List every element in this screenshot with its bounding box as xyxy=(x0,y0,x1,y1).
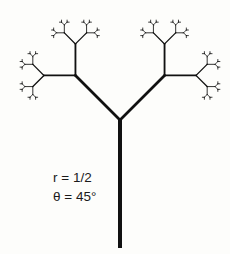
tree-branch xyxy=(33,54,36,57)
tree-branch xyxy=(22,84,25,87)
tree-branch xyxy=(75,33,86,44)
tree-branch xyxy=(33,94,36,97)
tree-branch xyxy=(215,64,218,67)
tree-branch xyxy=(196,75,207,86)
tree-branch xyxy=(22,64,25,67)
tree-branch xyxy=(30,54,33,57)
fractal-tree xyxy=(0,0,230,254)
tree-branch xyxy=(64,22,67,25)
tree-branch xyxy=(94,30,97,33)
tree-branch xyxy=(22,87,25,90)
tree-branch xyxy=(153,22,156,25)
tree-branch xyxy=(207,54,210,57)
ratio-label: r = 1/2 xyxy=(53,170,92,185)
tree-branch xyxy=(204,94,207,97)
tree-branch xyxy=(75,75,120,120)
tree-branch xyxy=(143,33,146,36)
tree-branch xyxy=(184,30,187,33)
tree-branch xyxy=(173,22,176,25)
tree-branch xyxy=(143,30,146,33)
tree-branch xyxy=(54,33,57,36)
tree-branch xyxy=(33,75,44,86)
tree-branch xyxy=(215,84,218,87)
tree-branch xyxy=(165,33,176,44)
tree-branch xyxy=(176,22,179,25)
tree-branch xyxy=(184,33,187,36)
tree-branch xyxy=(207,94,210,97)
tree-branch xyxy=(22,62,25,65)
tree-branch xyxy=(215,62,218,65)
tree-branch xyxy=(30,94,33,97)
tree-branch xyxy=(204,54,207,57)
tree-branch xyxy=(33,64,44,75)
tree-branches xyxy=(20,20,220,246)
angle-label: θ = 45° xyxy=(53,189,96,204)
tree-branch xyxy=(87,22,90,25)
tree-branch xyxy=(215,87,218,90)
tree-branch xyxy=(62,22,65,25)
tree-branch xyxy=(84,22,87,25)
tree-branch xyxy=(153,33,164,44)
tree-branch xyxy=(151,22,154,25)
tree-branch xyxy=(196,64,207,75)
tree-branch xyxy=(64,33,75,44)
tree-branch xyxy=(54,30,57,33)
tree-branch xyxy=(94,33,97,36)
tree-branch xyxy=(120,75,165,120)
